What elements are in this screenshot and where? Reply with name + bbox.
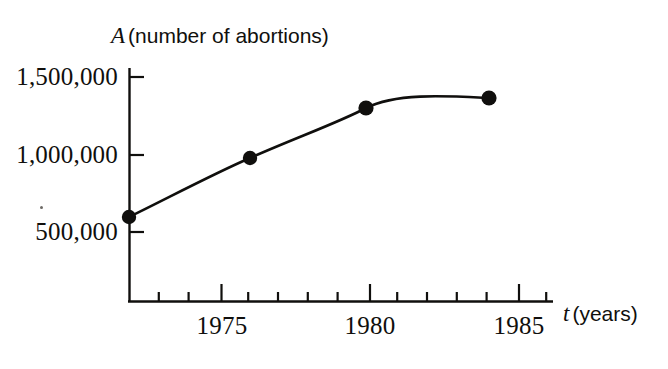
data-point-1980 xyxy=(358,100,373,115)
data-point-markers xyxy=(122,90,497,224)
y-axis-tick-marks xyxy=(130,77,144,232)
x-axis-tick-marks xyxy=(159,284,546,301)
plot-area xyxy=(0,0,668,369)
data-point-1972 xyxy=(122,210,136,224)
data-point-1984 xyxy=(481,90,496,105)
data-point-1976 xyxy=(243,151,257,165)
abortions-vs-year-line-chart: A(number of abortions) t(years) 1,500,00… xyxy=(0,0,668,369)
data-series-curve xyxy=(129,96,489,217)
